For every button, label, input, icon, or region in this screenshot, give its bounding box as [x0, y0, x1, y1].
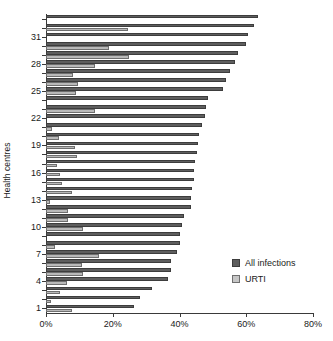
bar-urti: [46, 272, 83, 276]
y-tick-label: 4: [36, 276, 41, 286]
x-tick: [313, 313, 314, 317]
bar-all-infections: [46, 15, 258, 19]
bar-urti: [46, 309, 72, 313]
bar-urti: [46, 46, 109, 50]
bar-all-infections: [46, 133, 199, 137]
y-axis-title: Health centres: [0, 0, 14, 341]
bar-all-infections: [46, 160, 195, 164]
legend-swatch-all-infections: [232, 259, 240, 267]
legend-label-all-infections: All infections: [245, 258, 296, 268]
x-tick-label: 60%: [237, 319, 255, 329]
bar-urti: [46, 109, 95, 113]
bar-urti: [46, 127, 52, 131]
x-tick-label: 40%: [170, 319, 188, 329]
bar-urti: [46, 254, 99, 258]
chart-legend: All infections URTI: [232, 256, 296, 288]
bar-urti: [46, 28, 128, 32]
bar-urti: [46, 64, 95, 68]
bar-urti: [46, 200, 50, 204]
bar-urti: [46, 173, 60, 177]
bar-urti: [46, 300, 51, 304]
bar-all-infections: [46, 33, 248, 37]
bar-all-infections: [46, 69, 230, 73]
bar-all-infections: [46, 196, 191, 200]
y-tick-label: 7: [36, 249, 41, 259]
bar-all-infections: [46, 296, 140, 300]
bar-urti: [46, 164, 57, 168]
bar-urti: [46, 91, 76, 95]
bar-all-infections: [46, 123, 202, 127]
chart-figure: Health centres 0%20%40%60%80% 1471013161…: [0, 0, 333, 341]
x-tick-label: 20%: [104, 319, 122, 329]
y-tick: [42, 100, 46, 101]
y-tick-label: 16: [31, 168, 41, 178]
bar-urti: [46, 291, 60, 295]
y-tick-label: 10: [31, 222, 41, 232]
y-tick-label: 19: [31, 140, 41, 150]
x-tick: [46, 313, 47, 317]
y-tick-label: 28: [31, 59, 41, 69]
y-tick-label: 25: [31, 86, 41, 96]
x-tick-label: 0%: [39, 319, 52, 329]
bar-urti: [46, 191, 72, 195]
y-tick-label: 31: [31, 32, 41, 42]
bar-urti: [46, 155, 77, 159]
bar-urti: [46, 73, 73, 77]
bar-all-infections: [46, 169, 194, 173]
bar-all-infections: [46, 287, 152, 291]
y-tick: [42, 19, 46, 20]
bar-all-infections: [46, 232, 180, 236]
bar-urti: [46, 245, 55, 249]
bar-urti: [46, 209, 68, 213]
bar-all-infections: [46, 178, 194, 182]
y-tick-label: 13: [31, 195, 41, 205]
bar-urti: [46, 82, 78, 86]
bar-all-infections: [46, 241, 180, 245]
bar-all-infections: [46, 114, 205, 118]
legend-item-all-infections: All infections: [232, 256, 296, 270]
x-tick: [246, 313, 247, 317]
x-tick: [180, 313, 181, 317]
bar-urti: [46, 182, 62, 186]
y-tick: [42, 37, 46, 38]
x-tick: [113, 313, 114, 317]
bar-all-infections: [46, 96, 208, 100]
y-tick: [42, 118, 46, 119]
legend-item-urti: URTI: [232, 272, 296, 286]
bar-urti: [46, 146, 75, 150]
bar-urti: [46, 263, 82, 267]
bar-urti: [46, 55, 129, 59]
bar-urti: [46, 218, 68, 222]
y-tick-label: 1: [36, 303, 41, 313]
bar-urti: [46, 227, 83, 231]
x-tick-label: 80%: [304, 319, 322, 329]
y-tick-label: 22: [31, 113, 41, 123]
bar-urti: [46, 281, 67, 285]
bar-urti: [46, 136, 59, 140]
y-tick: [42, 236, 46, 237]
legend-label-urti: URTI: [245, 274, 266, 284]
legend-swatch-urti: [232, 275, 240, 283]
